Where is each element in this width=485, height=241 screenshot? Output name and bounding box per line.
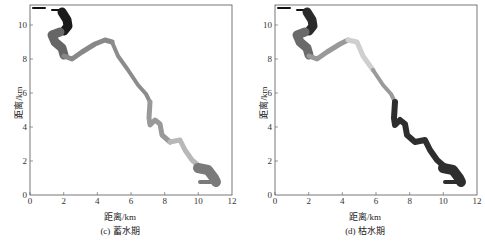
reservoir-channel — [33, 8, 218, 182]
y-tick: 2 — [23, 156, 28, 166]
y-tick: 10 — [263, 20, 273, 30]
y-axis-label: 距离/km — [257, 83, 270, 123]
panel-caption: (d) 枯水期 — [255, 224, 475, 237]
panel-caption: (c) 蓄水期 — [10, 224, 230, 237]
x-tick: 6 — [374, 196, 379, 206]
y-tick: 0 — [268, 190, 273, 200]
x-tick: 0 — [28, 196, 33, 206]
reservoir-channel — [278, 8, 463, 182]
map-plot-d: 0 2 4 6 8 10 12 0 2 4 6 8 10 — [245, 0, 485, 241]
x-tick: 10 — [194, 196, 204, 206]
x-tick: 4 — [340, 196, 345, 206]
y-tick: 2 — [268, 156, 273, 166]
x-tick: 4 — [95, 196, 100, 206]
x-tick: 2 — [61, 196, 66, 206]
x-axis-label: 距离/km — [255, 210, 475, 223]
y-axis-label: 距离/km — [12, 83, 25, 123]
y-tick: 8 — [23, 54, 28, 64]
panel-d: 0 2 4 6 8 10 12 0 2 4 6 8 10 距离/km — [245, 0, 485, 241]
x-tick: 12 — [228, 196, 237, 206]
y-tick: 8 — [268, 54, 273, 64]
x-tick: 6 — [129, 196, 134, 206]
x-tick: 8 — [407, 196, 412, 206]
x-tick: 2 — [306, 196, 311, 206]
x-axis-label: 距离/km — [10, 210, 230, 223]
y-tick: 0 — [23, 190, 28, 200]
x-tick: 8 — [162, 196, 167, 206]
y-tick: 4 — [23, 122, 28, 132]
y-tick: 10 — [18, 20, 28, 30]
y-tick: 4 — [268, 122, 273, 132]
x-tick: 10 — [439, 196, 449, 206]
x-tick: 12 — [473, 196, 482, 206]
panel-c: 0 2 4 6 8 10 12 0 2 4 6 8 10 距 — [0, 0, 242, 241]
map-plot-c: 0 2 4 6 8 10 12 0 2 4 6 8 10 — [0, 0, 242, 241]
x-tick: 0 — [273, 196, 278, 206]
